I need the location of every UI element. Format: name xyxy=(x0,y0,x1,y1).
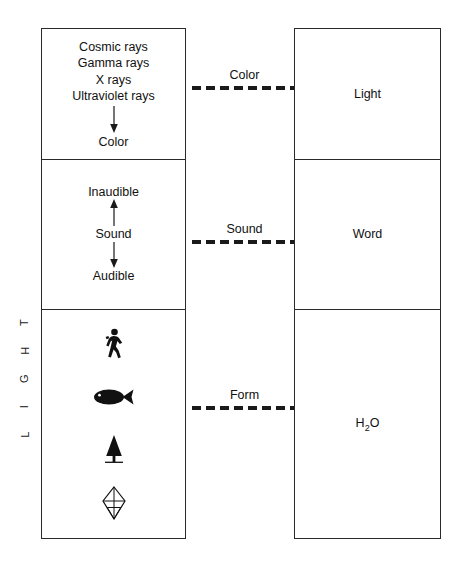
term-water-formula: H2O xyxy=(356,416,380,433)
term-inaudible: Inaudible xyxy=(88,185,139,199)
term-word: Word xyxy=(353,227,383,241)
vertical-label-char-l: L xyxy=(20,431,31,438)
matter-icon-stack xyxy=(93,327,135,520)
left-column: Cosmic rays Gamma rays X rays Ultraviole… xyxy=(41,28,186,539)
right-cell-word: Word xyxy=(295,160,440,310)
right-column: Light Word H2O xyxy=(294,28,441,539)
dashed-line-form xyxy=(192,406,297,410)
water-o: O xyxy=(370,416,380,430)
connector-label-form: Form xyxy=(230,388,259,402)
term-audible: Audible xyxy=(93,269,135,283)
diagram-canvas: L I G H T Cosmic rays Gamma rays X rays … xyxy=(0,0,457,565)
water-h: H xyxy=(356,416,365,430)
connector-color: Color xyxy=(192,68,297,90)
ray-line-ultraviolet: Ultraviolet rays xyxy=(72,88,155,105)
dashed-line-color xyxy=(192,86,297,90)
left-cell-acoustic: Inaudible Sound Audible xyxy=(42,160,185,310)
up-arrow-icon-inaudible xyxy=(107,199,121,227)
vertical-label-char-h: H xyxy=(19,346,30,354)
fish-icon xyxy=(93,380,135,414)
walking-person-icon xyxy=(93,327,135,361)
ray-line-cosmic: Cosmic rays xyxy=(72,39,155,56)
vertical-label-char-t: T xyxy=(19,319,30,326)
vertical-label-char-i: I xyxy=(20,405,31,409)
term-color: Color xyxy=(99,135,129,149)
term-light: Light xyxy=(354,87,381,101)
ray-line-gamma: Gamma rays xyxy=(72,55,155,72)
ray-line-xray: X rays xyxy=(72,72,155,89)
vertical-label-char-g: G xyxy=(20,374,31,383)
crystal-icon xyxy=(93,486,135,520)
connector-sound: Sound xyxy=(192,222,297,244)
ray-list: Cosmic rays Gamma rays X rays Ultraviole… xyxy=(72,39,155,105)
down-arrow-icon-color xyxy=(107,105,121,135)
connector-label-color: Color xyxy=(230,68,260,82)
left-cell-matter xyxy=(42,310,185,539)
left-cell-electromagnetic: Cosmic rays Gamma rays X rays Ultraviole… xyxy=(42,29,185,160)
dashed-line-sound xyxy=(192,240,297,244)
connector-label-sound: Sound xyxy=(226,222,262,236)
down-arrow-icon-audible xyxy=(107,241,121,269)
vertical-light-label: L I G H T xyxy=(14,200,36,440)
connector-form: Form xyxy=(192,388,297,410)
right-cell-light: Light xyxy=(295,29,440,160)
tree-icon xyxy=(93,433,135,467)
term-sound: Sound xyxy=(95,227,131,241)
right-cell-water: H2O xyxy=(295,310,440,539)
